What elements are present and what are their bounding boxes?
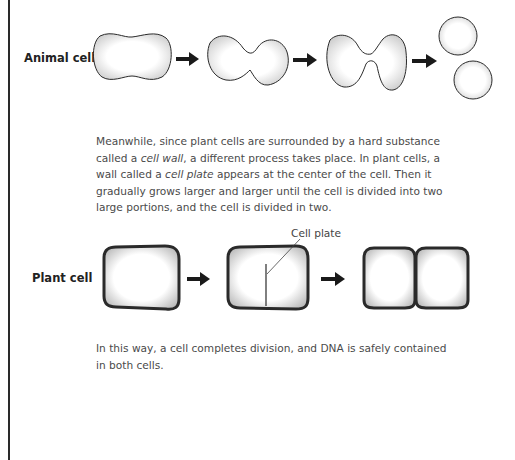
term-cell-plate: cell plate — [165, 168, 213, 180]
plant-stage-1-cell — [104, 246, 179, 309]
arrow-icon — [321, 272, 345, 286]
cell-plate-callout: Cell plate — [291, 227, 341, 239]
animal-stage-1-oval — [93, 34, 171, 80]
arrow-icon — [412, 54, 437, 68]
plant-stage-2-cell-plate — [228, 239, 308, 309]
paragraph-plant-division: Meanwhile, since plant cells are surroun… — [96, 133, 456, 216]
plant-stage-3-daughter-cells — [364, 248, 468, 308]
arrow-icon — [176, 52, 199, 66]
plant-cell-label: Plant cell — [32, 271, 92, 285]
animal-stage-4-daughter-cells — [439, 17, 492, 99]
animal-stage-3-nearly-divided — [327, 35, 407, 90]
arrow-icon — [187, 272, 210, 286]
division-diagrams — [0, 0, 515, 460]
term-cell-wall: cell wall — [141, 152, 184, 164]
paragraph-conclusion: In this way, a cell completes division, … — [96, 340, 456, 373]
arrow-icon — [293, 53, 317, 67]
animal-stage-2-pinching — [208, 36, 289, 85]
